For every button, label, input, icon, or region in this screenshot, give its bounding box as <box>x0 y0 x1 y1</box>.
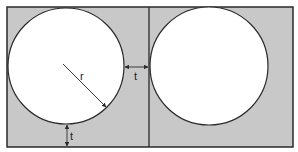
diagram-canvas: r t t <box>0 0 298 152</box>
side-thickness-label: t <box>134 70 137 82</box>
right-circle <box>150 7 268 125</box>
bottom-thickness-label: t <box>70 130 73 142</box>
radius-label: r <box>80 70 84 82</box>
left-circle <box>8 8 124 124</box>
